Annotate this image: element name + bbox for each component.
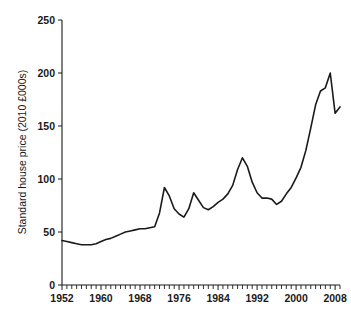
data-series-line	[62, 73, 340, 245]
y-tick-label: 150	[37, 120, 55, 132]
x-tick-label: 1976	[167, 292, 191, 304]
x-tick-label: 2000	[284, 292, 308, 304]
y-axis-title-group: Standard house price (2010 £000s)	[16, 70, 28, 235]
chart-container: Standard house price (2010 £000s) 050100…	[0, 0, 351, 319]
y-tick-label: 200	[37, 67, 55, 79]
x-tick-label: 1992	[245, 292, 269, 304]
x-tick-label: 1960	[89, 292, 113, 304]
line-chart: Standard house price (2010 £000s) 050100…	[0, 0, 351, 319]
y-tick-label: 50	[43, 226, 55, 238]
x-tick-label: 1968	[128, 292, 152, 304]
y-tick-label: 0	[49, 279, 55, 291]
x-tick-label: 1984	[206, 292, 230, 304]
x-tick-label: 2008	[323, 292, 347, 304]
x-tick-label: 1952	[50, 292, 74, 304]
y-axis-title: Standard house price (2010 £000s)	[16, 70, 28, 235]
x-axis-ticks: 19521960196819761984199220002008	[50, 285, 347, 304]
y-tick-label: 100	[37, 173, 55, 185]
y-axis-ticks: 050100150200250	[37, 14, 62, 291]
y-tick-label: 250	[37, 14, 55, 26]
